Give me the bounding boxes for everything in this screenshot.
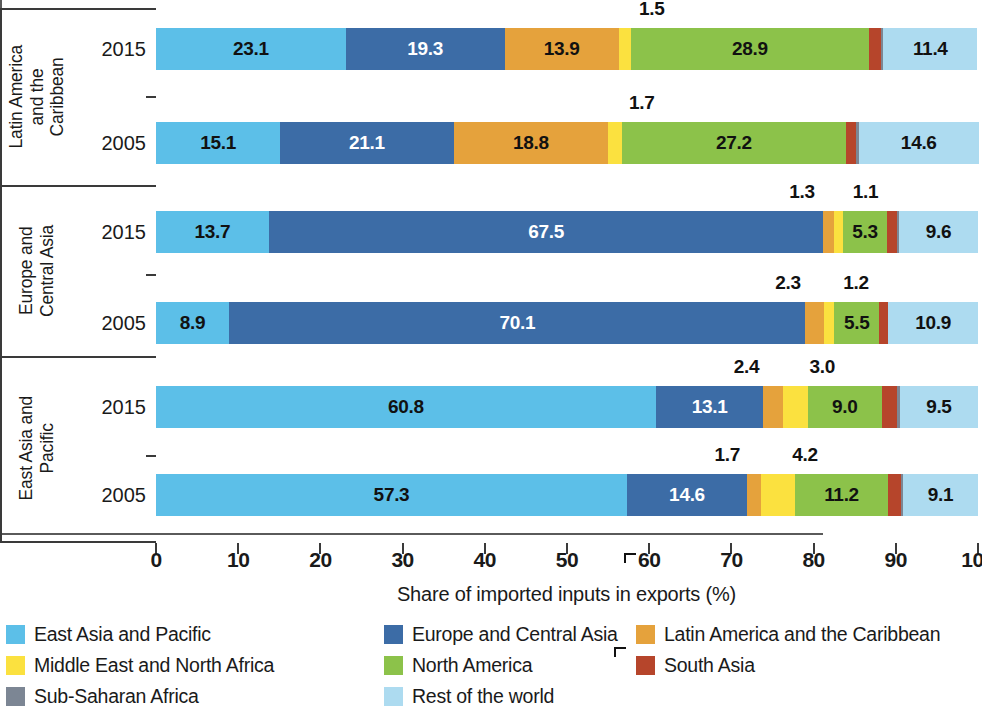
x-tick-label: 20 — [290, 548, 350, 572]
bar-segment: 14.6 — [627, 474, 747, 516]
legend-label: Rest of the world — [412, 685, 554, 708]
legend-label: East Asia and Pacific — [34, 623, 211, 646]
legend-item[interactable]: East Asia and Pacific — [6, 620, 211, 648]
year-label: 2015 — [74, 396, 146, 419]
stacked-bar: 15.121.118.827.214.6 — [156, 122, 979, 164]
x-tick-label: 90 — [866, 548, 926, 572]
bar-segment: 18.8 — [454, 122, 609, 164]
year-label: 2005 — [74, 132, 146, 155]
x-axis-title: Share of imported inputs in exports (%) — [155, 583, 978, 606]
segment-callout-label: 3.0 — [810, 356, 854, 378]
segment-callout-label: 4.2 — [792, 444, 836, 466]
legend-item[interactable]: Rest of the world — [384, 682, 554, 710]
bar-segment: 27.2 — [622, 122, 846, 164]
bar-segment: 19.3 — [346, 28, 505, 70]
x-tick-label: 0 — [126, 548, 186, 572]
bar-segment: 9.5 — [900, 386, 978, 428]
segment-callout-label: 1.3 — [771, 181, 815, 203]
legend-label: South Asia — [664, 654, 755, 677]
legend-item[interactable]: Middle East and North Africa — [6, 651, 274, 679]
bar-segment: 23.1 — [156, 28, 346, 70]
group-separator — [0, 541, 156, 543]
bar-segment — [882, 386, 897, 428]
segment-callout-label: 1.7 — [629, 92, 673, 114]
bar-segment: 9.0 — [808, 386, 882, 428]
x-tick-label: 70 — [701, 548, 761, 572]
x-tick-label: 60 — [619, 548, 679, 572]
x-tick-label: 10 — [208, 548, 268, 572]
bar-segment — [619, 28, 631, 70]
legend-item[interactable]: South Asia — [636, 651, 755, 679]
legend-item[interactable]: North America — [384, 651, 532, 679]
axis-minor-tick — [146, 455, 156, 457]
stacked-bar: 57.314.611.29.1 — [156, 474, 978, 516]
legend-item[interactable]: Europe and Central Asia — [384, 620, 618, 648]
axis-minor-tick — [146, 274, 156, 276]
bar-segment — [824, 302, 834, 344]
legend-label: Sub-Saharan Africa — [34, 685, 199, 708]
x-tick-label: 30 — [373, 548, 433, 572]
bar-segment — [783, 386, 808, 428]
bar-segment — [879, 302, 887, 344]
bar-segment — [823, 211, 834, 253]
bar-segment: 5.3 — [843, 211, 887, 253]
bar-segment: 70.1 — [229, 302, 805, 344]
segment-callout-label: 1.5 — [639, 0, 683, 20]
segment-callout-label: 1.7 — [696, 444, 740, 466]
bar-segment: 28.9 — [631, 28, 869, 70]
year-label: 2015 — [74, 38, 146, 61]
stacked-bar-chart: Latin America and the Caribbean201523.11… — [0, 0, 982, 715]
legend-swatch-icon — [6, 687, 25, 706]
stacked-bar: 13.767.55.39.6 — [156, 211, 978, 253]
bar-segment — [869, 28, 881, 70]
x-axis-line — [0, 533, 823, 535]
bar-segment: 14.6 — [859, 122, 979, 164]
bar-segment: 13.7 — [156, 211, 269, 253]
legend-swatch-icon — [636, 656, 655, 675]
legend-label: Middle East and North Africa — [34, 654, 274, 677]
bar-segment: 5.5 — [834, 302, 879, 344]
bar-segment: 13.9 — [505, 28, 619, 70]
legend-swatch-icon — [636, 625, 655, 644]
axis-minor-tick — [146, 96, 156, 98]
legend-item[interactable]: Latin America and the Caribbean — [636, 620, 940, 648]
group-label: Europe and Central Asia — [0, 185, 74, 356]
bar-segment: 8.9 — [156, 302, 229, 344]
bar-segment: 9.6 — [899, 211, 978, 253]
bar-segment: 11.2 — [795, 474, 887, 516]
year-label: 2015 — [74, 221, 146, 244]
bar-segment — [763, 386, 783, 428]
segment-callout-label: 2.3 — [757, 272, 801, 294]
segment-callout-label: 2.4 — [715, 356, 759, 378]
bar-segment — [805, 302, 824, 344]
stacked-bar: 8.970.15.510.9 — [156, 302, 978, 344]
year-label: 2005 — [74, 484, 146, 507]
legend-label: Europe and Central Asia — [412, 623, 618, 646]
legend-swatch-icon — [6, 625, 25, 644]
legend-item[interactable]: Sub-Saharan Africa — [6, 682, 199, 710]
bar-segment — [608, 122, 622, 164]
year-label: 2005 — [74, 312, 146, 335]
group-label: Latin America and the Caribbean — [0, 8, 74, 185]
bar-segment — [887, 211, 897, 253]
bar-segment: 15.1 — [156, 122, 280, 164]
bar-segment — [761, 474, 796, 516]
x-tick-label: 100 — [948, 548, 982, 572]
bar-segment: 10.9 — [888, 302, 978, 344]
bar-segment: 21.1 — [280, 122, 453, 164]
x-tick-label: 50 — [537, 548, 597, 572]
bar-segment: 57.3 — [156, 474, 627, 516]
legend-swatch-icon — [6, 656, 25, 675]
bar-segment: 13.1 — [656, 386, 764, 428]
bar-segment: 11.4 — [883, 28, 977, 70]
bar-segment — [846, 122, 857, 164]
legend-label: Latin America and the Caribbean — [664, 623, 940, 646]
stacked-bar: 60.813.19.09.5 — [156, 386, 978, 428]
segment-callout-label: 1.1 — [853, 181, 897, 203]
x-tick-label: 80 — [784, 548, 844, 572]
bar-segment: 67.5 — [269, 211, 824, 253]
legend-swatch-icon — [384, 687, 403, 706]
bar-segment — [888, 474, 901, 516]
bar-segment — [834, 211, 843, 253]
legend-swatch-icon — [384, 625, 403, 644]
